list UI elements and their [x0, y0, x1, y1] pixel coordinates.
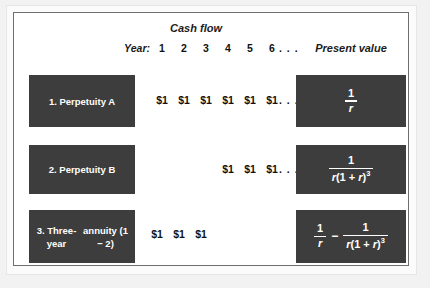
fraction-numerator: 1	[345, 155, 357, 168]
present-value-box-three-year-annuity: 1 r − 1 r(1 + r)3	[296, 210, 406, 263]
year-tick-3: 3	[203, 42, 209, 54]
year-tick-2: 2	[181, 42, 187, 54]
row-label-line-1: 3. Three-year	[33, 224, 80, 250]
present-value-box-perpetuity-a: 1 r	[296, 75, 406, 127]
cash-flow-y1: $1	[156, 94, 168, 106]
cash-flow-y3: $1	[195, 228, 207, 240]
fraction-one-over-r-1-plus-r-cubed: 1 r(1 + r)3	[329, 155, 374, 183]
cash-flow-row-perpetuity-b: $1 $1 $1 . . .	[155, 163, 295, 177]
fraction-numerator: 1	[360, 222, 372, 235]
cash-flow-y4: $1	[222, 163, 234, 175]
year-tick-1: 1	[159, 42, 165, 54]
cash-flow-y5: $1	[244, 94, 256, 106]
present-value-box-perpetuity-b: 1 r(1 + r)3	[296, 145, 406, 194]
fraction-numerator: 1	[314, 223, 326, 236]
row-label-line-2: annuity (1 − 2)	[80, 224, 131, 250]
fraction-one-over-r: 1 r	[314, 223, 326, 249]
fraction-denominator: r	[346, 102, 356, 115]
cash-flow-y1: $1	[151, 228, 163, 240]
figure-canvas: Cash flow Present value Year: 1 2 3 4 5 …	[0, 0, 430, 288]
row-label-perpetuity-a: 1. Perpetuity A	[29, 75, 135, 127]
cash-flow-row-three-year-annuity: $1 $1 $1	[150, 228, 290, 242]
year-axis-label: Year:	[124, 42, 150, 54]
cash-flow-y2: $1	[173, 228, 185, 240]
year-tick-6: 6	[269, 42, 275, 54]
cash-flow-row-perpetuity-a: $1 $1 $1 $1 $1 $1 . . .	[155, 94, 295, 108]
cash-flow-y3: $1	[200, 94, 212, 106]
year-tick-4: 4	[225, 42, 231, 54]
fraction-denominator: r(1 + r)3	[329, 169, 374, 183]
cash-flow-y6: $1	[266, 94, 278, 106]
row-label-three-year-annuity: 3. Three-year annuity (1 − 2)	[29, 210, 135, 263]
cash-flow-y4: $1	[222, 94, 234, 106]
figure-container: Cash flow Present value Year: 1 2 3 4 5 …	[0, 0, 430, 288]
formula-perpetuity-a: 1 r	[345, 88, 357, 114]
cash-flow-y2: $1	[178, 94, 190, 106]
row-label-perpetuity-b: 2. Perpetuity B	[29, 145, 135, 194]
present-value-header: Present value	[315, 42, 387, 54]
fraction-one-over-r-1-plus-r-cubed: 1 r(1 + r)3	[343, 222, 388, 250]
formula-perpetuity-b: 1 r(1 + r)3	[329, 155, 374, 183]
year-tick-5: 5	[247, 42, 253, 54]
fraction-denominator: r	[315, 237, 325, 250]
formula-three-year-annuity: 1 r − 1 r(1 + r)3	[314, 222, 388, 250]
fraction-one-over-r: 1 r	[345, 88, 357, 114]
minus-operator: −	[331, 229, 338, 244]
cash-flow-header: Cash flow	[170, 22, 222, 34]
cash-flow-y5: $1	[244, 163, 256, 175]
fraction-numerator: 1	[345, 88, 357, 101]
fraction-denominator: r(1 + r)3	[343, 236, 388, 250]
cash-flow-y6: $1	[266, 163, 278, 175]
year-tick-ellipsis: . . .	[279, 42, 299, 54]
